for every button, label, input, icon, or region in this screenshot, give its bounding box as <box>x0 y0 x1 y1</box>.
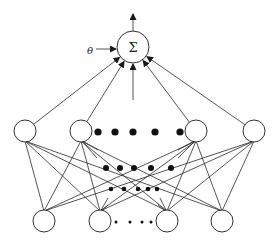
ellipsis-dot <box>131 165 137 171</box>
connection-edges <box>25 140 254 212</box>
hidden-node <box>14 120 36 142</box>
layer-edge <box>81 141 222 211</box>
hidden-node <box>70 120 92 142</box>
hidden-to-sum-edge <box>87 61 124 121</box>
ellipsis-dot <box>109 187 114 192</box>
ellipsis-dot <box>136 187 141 192</box>
layer-edge <box>25 141 100 211</box>
summation-symbol: Σ <box>128 40 137 55</box>
ellipsis-dot <box>148 165 154 171</box>
ellipsis-dot <box>111 128 118 135</box>
ellipsis-dot <box>115 221 118 224</box>
input-node <box>89 210 111 232</box>
neural-network-diagram: Σ θ <box>0 0 279 242</box>
layer-edge <box>222 141 254 211</box>
input-node <box>211 210 233 232</box>
ellipsis-dot <box>151 128 158 135</box>
hidden-node <box>243 120 265 142</box>
layer-edge <box>25 141 44 211</box>
layer-edge <box>44 141 196 211</box>
ellipsis-dot <box>129 128 136 135</box>
layer-edge <box>196 141 222 211</box>
stub-edge <box>178 140 196 158</box>
nodes <box>14 31 265 232</box>
hidden-node <box>185 120 207 142</box>
ellipsis-dot <box>117 165 123 171</box>
ellipsis-dot <box>122 187 127 192</box>
ellipsis-dot <box>176 128 183 135</box>
ellipsis-dot <box>94 128 101 135</box>
layer-edge <box>81 141 100 211</box>
input-node <box>156 210 178 232</box>
layer-edge <box>167 141 254 211</box>
layer-edge <box>25 141 167 211</box>
ellipsis-dot <box>129 221 132 224</box>
ellipsis-dot <box>155 187 160 192</box>
ellipsis-dot <box>150 221 153 224</box>
arrows <box>34 14 245 125</box>
ellipsis-dot <box>146 187 151 192</box>
hidden-to-sum-edge <box>147 57 245 125</box>
hidden-to-sum-edge <box>34 57 120 124</box>
input-node <box>33 210 55 232</box>
ellipsis-dots <box>94 128 183 223</box>
bias-theta-label: θ <box>87 45 93 56</box>
ellipsis-dot <box>168 165 174 171</box>
ellipsis-dot <box>141 221 144 224</box>
ellipsis-dot <box>103 165 109 171</box>
